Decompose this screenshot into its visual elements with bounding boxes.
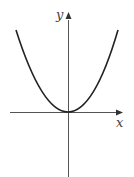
parabola-curve [16,30,118,112]
y-axis-label: y [55,7,64,22]
x-axis-label: x [116,115,124,130]
y-axis-arrow-icon [66,12,72,19]
parabola-graph: y x [0,0,134,177]
